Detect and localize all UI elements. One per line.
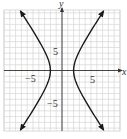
tick-labels: −5 5 5 −5 y x [25,0,127,109]
x-axis-label: x [121,66,127,77]
y-axis-label: y [58,0,64,9]
hyperbola-graph: −5 5 5 −5 y x [0,0,127,139]
x-tick-pos5: 5 [90,74,95,85]
axes [4,8,122,131]
y-tick-pos5: 5 [53,46,58,57]
x-tick-neg5: −5 [25,73,36,84]
y-tick-neg5: −5 [47,98,58,109]
